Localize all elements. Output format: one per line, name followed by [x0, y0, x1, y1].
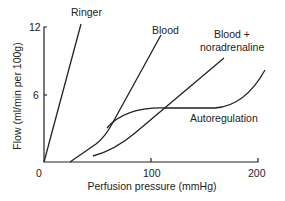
y-tick-label-12: 12 [29, 21, 41, 33]
label-autoregulation: Autoregulation [190, 112, 258, 124]
label-blood-noradrenaline-line2: noradrenaline [200, 41, 264, 53]
x-tick-label-100: 100 [143, 167, 161, 179]
x-tick-label-200: 200 [248, 167, 266, 179]
label-ringer: Ringer [71, 6, 102, 18]
series-blood [70, 35, 161, 162]
y-axis-label: Flow (ml/min per 100g) [11, 42, 23, 149]
y-tick-label-6: 6 [33, 89, 39, 101]
series-blood-noradrenaline [93, 58, 224, 156]
x-tick-label-0: 0 [36, 167, 42, 179]
chart: 12 6 0 100 200 Perfusion pressure (mmHg)… [0, 0, 285, 201]
label-blood-noradrenaline-line1: Blood + [214, 28, 250, 40]
x-axis-label: Perfusion pressure (mmHg) [88, 180, 217, 192]
label-blood: Blood [152, 24, 179, 36]
series-ringer [44, 24, 81, 162]
